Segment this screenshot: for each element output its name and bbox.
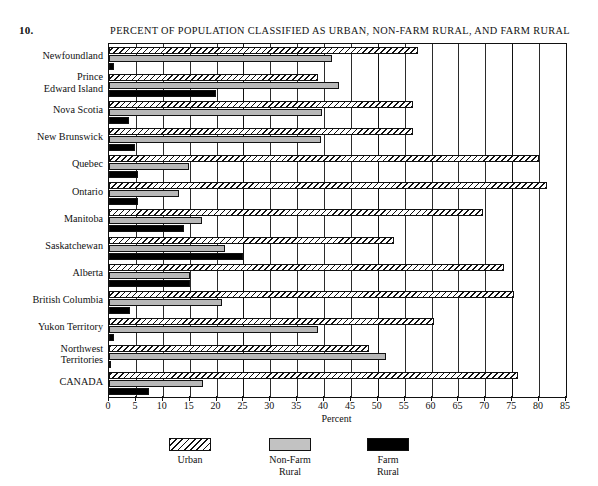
x-axis-tick-label: 15 [174, 400, 204, 411]
bar-group [109, 343, 566, 370]
y-axis-label: British Columbia [0, 294, 103, 305]
bar-group [109, 207, 566, 234]
bar-group [109, 180, 566, 207]
bar-urban [109, 318, 434, 325]
bar-farm [109, 334, 114, 341]
bar-urban [109, 47, 418, 54]
y-axis-label: CANADA [0, 376, 103, 387]
bar-urban [109, 155, 539, 162]
x-axis-tick-label: 70 [469, 400, 499, 411]
bar-farm [109, 117, 129, 124]
bar-nonfarm [109, 190, 179, 197]
y-axis-label: Nova Scotia [0, 104, 103, 115]
bar-nonfarm [109, 163, 189, 170]
bar-group [109, 316, 566, 343]
bar-urban [109, 182, 547, 189]
x-axis-tick-label: 20 [201, 400, 231, 411]
x-axis-tick-label: 55 [389, 400, 419, 411]
bar-nonfarm [109, 299, 222, 306]
legend-label-nonfarm: Non-Farm Rural [250, 454, 330, 477]
x-axis-tick-label: 10 [147, 400, 177, 411]
bar-farm [109, 63, 114, 70]
x-axis-tick-label: 25 [227, 400, 257, 411]
y-axis-label: Manitoba [0, 213, 103, 224]
bar-group [109, 98, 566, 125]
bar-farm [109, 171, 138, 178]
figure-title: PERCENT OF POPULATION CLASSIFIED AS URBA… [90, 25, 590, 36]
bar-group [109, 125, 566, 152]
bar-group [109, 288, 566, 315]
x-axis-tick-label: 65 [442, 400, 472, 411]
bar-group [109, 234, 566, 261]
x-axis-tick-label: 75 [496, 400, 526, 411]
plot-area [108, 43, 567, 398]
x-axis-tick-label: 60 [416, 400, 446, 411]
bar-nonfarm [109, 109, 322, 116]
bar-farm [109, 144, 135, 151]
bar-farm [109, 90, 216, 97]
x-axis-tick-label: 85 [550, 400, 580, 411]
y-axis-label: Alberta [0, 267, 103, 278]
bar-nonfarm [109, 217, 202, 224]
bar-farm [109, 198, 138, 205]
legend-item-farm: Farm Rural [348, 438, 428, 477]
x-axis-tick-label: 40 [308, 400, 338, 411]
y-axis-label: Quebec [0, 158, 103, 169]
y-axis-label: Ontario [0, 186, 103, 197]
legend-item-urban: Urban [150, 438, 230, 466]
legend-swatch-nonfarm [269, 438, 311, 451]
bar-urban [109, 291, 514, 298]
chart-legend: UrbanNon-Farm RuralFarm Rural [150, 438, 450, 484]
x-axis-tick-label: 5 [120, 400, 150, 411]
y-axis-label: New Brunswick [0, 131, 103, 142]
bar-nonfarm [109, 55, 332, 62]
y-axis-label: Newfoundland [0, 50, 103, 61]
y-axis-label: Northwest Territories [0, 343, 103, 366]
bar-farm [109, 253, 243, 260]
bar-farm [109, 225, 184, 232]
y-axis-label: Prince Edward Island [0, 71, 103, 94]
bar-urban [109, 209, 483, 216]
bar-nonfarm [109, 272, 190, 279]
x-axis-tick-label: 45 [335, 400, 365, 411]
x-axis-tick-label: 50 [362, 400, 392, 411]
bar-group [109, 370, 566, 397]
bar-nonfarm [109, 82, 339, 89]
bar-urban [109, 345, 369, 352]
legend-label-farm: Farm Rural [348, 454, 428, 477]
bar-farm [109, 388, 149, 395]
bar-nonfarm [109, 245, 225, 252]
bar-urban [109, 264, 504, 271]
bar-urban [109, 74, 318, 81]
legend-label-urban: Urban [150, 454, 230, 466]
bar-urban [109, 101, 413, 108]
legend-swatch-urban [169, 438, 211, 451]
figure-page: 10. PERCENT OF POPULATION CLASSIFIED AS … [0, 0, 598, 486]
y-axis-label: Saskatchewan [0, 240, 103, 251]
bar-nonfarm [109, 136, 321, 143]
bar-urban [109, 237, 394, 244]
legend-swatch-farm [367, 438, 409, 451]
bar-farm [109, 280, 190, 287]
bar-urban [109, 128, 413, 135]
bar-urban [109, 372, 518, 379]
bar-farm [109, 361, 111, 368]
x-axis-tick-label: 0 [93, 400, 123, 411]
bar-nonfarm [109, 326, 318, 333]
bar-group [109, 71, 566, 98]
bar-group [109, 261, 566, 288]
y-axis-label: Yukon Territory [0, 321, 103, 332]
bar-group [109, 44, 566, 71]
x-axis-title: Percent [108, 413, 565, 424]
bar-group [109, 153, 566, 180]
bar-nonfarm [109, 380, 203, 387]
bar-farm [109, 307, 130, 314]
x-axis-tick-label: 80 [523, 400, 553, 411]
x-axis-tick-label: 30 [254, 400, 284, 411]
bar-nonfarm [109, 353, 386, 360]
x-axis-tick-label: 35 [281, 400, 311, 411]
legend-item-nonfarm: Non-Farm Rural [250, 438, 330, 477]
figure-number: 10. [19, 24, 33, 36]
